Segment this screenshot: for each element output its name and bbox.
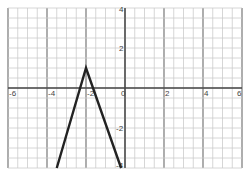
x-tick-label: -4 [48,89,56,98]
y-tick-label: 4 [119,5,124,14]
x-tick-label: 4 [204,89,209,98]
coordinate-plane: -6-4-2024642-2-4 [0,0,251,182]
x-tick-label: 6 [237,89,242,98]
y-tick-label: -2 [116,124,124,133]
x-tick-label: 2 [165,89,170,98]
x-tick-label: -6 [9,89,17,98]
x-tick-label: 0 [121,89,126,98]
y-tick-label: 2 [119,44,124,53]
axes [8,8,242,168]
